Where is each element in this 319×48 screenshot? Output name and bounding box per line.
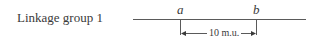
arrowhead-right-icon bbox=[251, 31, 256, 36]
locus-b-label: b bbox=[253, 3, 260, 17]
distance-label: 10 m.u. bbox=[207, 27, 241, 39]
chromosome-diagram bbox=[0, 0, 319, 48]
locus-a-label: a bbox=[177, 3, 184, 17]
arrowhead-left-icon bbox=[181, 31, 186, 36]
